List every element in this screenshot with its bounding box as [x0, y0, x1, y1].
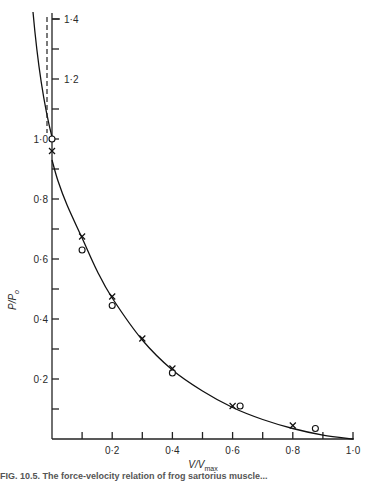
circle-marker [312, 426, 318, 432]
axis-ticks: 0·20·40·60·81·01·21·40·20·40·60·81·0 [34, 14, 361, 456]
y-tick-label: 0·8 [34, 194, 49, 205]
data-markers [49, 136, 318, 432]
y-axis-label: P/Po [7, 290, 20, 310]
curves [33, 12, 353, 439]
y-tick-label: 1·0 [34, 134, 49, 145]
x-tick-label: 0·4 [165, 445, 180, 456]
lengthening-curve [33, 12, 52, 137]
circle-marker [79, 247, 85, 253]
y-tick-label: 0·2 [34, 374, 49, 385]
circle-marker [237, 403, 243, 409]
x-tick-label: 0·2 [105, 445, 120, 456]
cross-marker [290, 423, 296, 429]
axes [52, 13, 354, 439]
y-tick-label: 0·6 [34, 254, 49, 265]
force-velocity-curve [52, 160, 353, 439]
x-tick-label: 0·8 [286, 445, 301, 456]
force-velocity-chart: 0·20·40·60·81·01·21·40·20·40·60·81·0 P/P… [0, 0, 376, 481]
y-tick-label: 1·2 [64, 74, 79, 85]
x-tick-label: 1·0 [346, 445, 361, 456]
y-tick-label: 0·4 [34, 314, 49, 325]
circle-marker [169, 370, 175, 376]
circle-marker [49, 136, 55, 142]
figure-caption: FIG. 10.5. The force-velocity relation o… [0, 471, 376, 481]
circle-marker [109, 303, 115, 309]
y-tick-label: 1·4 [64, 14, 79, 25]
x-tick-label: 0·6 [225, 445, 240, 456]
